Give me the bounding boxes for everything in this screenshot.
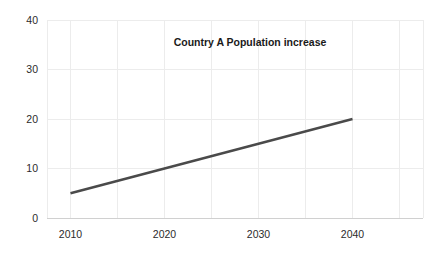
x-axis-tick-label: 2010 — [59, 228, 83, 240]
line-chart: 010203040 2010202020302040 Country A Pop… — [0, 0, 444, 254]
chart-title: Country A Population increase — [174, 36, 327, 48]
x-axis-tick-label: 2030 — [247, 228, 271, 240]
chart-container: 010203040 2010202020302040 Country A Pop… — [0, 0, 444, 254]
y-axis-tick-label: 40 — [26, 14, 38, 26]
y-axis-tick-label: 0 — [32, 212, 38, 224]
y-axis-tick-label: 10 — [26, 162, 38, 174]
x-axis-tick-label: 2020 — [153, 228, 177, 240]
x-axis-tick-label: 2040 — [341, 228, 365, 240]
y-axis-tick-label: 30 — [26, 63, 38, 75]
y-axis-tick-label: 20 — [26, 113, 38, 125]
